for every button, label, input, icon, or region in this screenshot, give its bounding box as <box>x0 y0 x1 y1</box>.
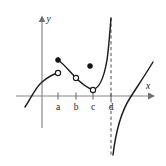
open-circle-at-a <box>55 70 60 75</box>
y-axis-arrowhead <box>39 16 46 23</box>
graph-figure: y x a b c d <box>0 0 166 166</box>
tick-label-a: a <box>56 102 61 112</box>
y-axis-label: y <box>46 14 52 24</box>
open-circle-at-c <box>90 87 95 92</box>
tick-label-c: c <box>91 102 95 112</box>
curve-far-right-branch <box>113 62 153 155</box>
filled-dot-above-c <box>88 64 93 69</box>
x-axis-label: x <box>145 81 151 91</box>
open-circle-at-b <box>73 75 78 80</box>
function-graph-svg: y x a b c d <box>0 0 166 166</box>
curve-right-of-c-branch <box>93 18 111 90</box>
tick-label-b: b <box>74 102 79 112</box>
filled-dot-above-a <box>56 58 61 63</box>
x-axis-arrowhead <box>148 93 155 100</box>
